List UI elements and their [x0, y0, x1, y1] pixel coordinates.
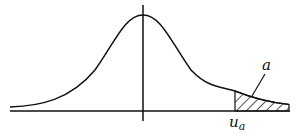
critical-value-base: u	[229, 113, 239, 131]
diagram: a ua	[0, 0, 299, 135]
normal-curve-figure: a ua	[0, 0, 299, 135]
bell-curve	[10, 15, 289, 107]
critical-value-label: ua	[229, 113, 245, 133]
critical-value-subscript: a	[239, 120, 246, 133]
alpha-label: a	[262, 56, 271, 74]
alpha-leader-line	[252, 74, 265, 96]
